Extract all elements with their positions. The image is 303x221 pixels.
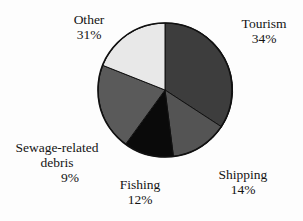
pie-label-fishing-value: 12% xyxy=(106,192,174,207)
pie-label-other: Other 31% xyxy=(58,12,120,42)
pie-label-tourism-name: Tourism xyxy=(228,16,300,31)
pie-label-fishing: Fishing 12% xyxy=(106,177,174,207)
pie-label-sewage-related-debris-line1: Sewage-related xyxy=(2,140,112,155)
pie-label-tourism: Tourism 34% xyxy=(228,16,300,46)
pie-label-shipping: Shipping 14% xyxy=(203,167,283,197)
pie-label-other-name: Other xyxy=(58,12,120,27)
pie-label-other-value: 31% xyxy=(58,27,120,42)
pie-label-fishing-name: Fishing xyxy=(106,177,174,192)
pie-chart-figure: Tourism 34% Other 31% Shipping 14% Fishi… xyxy=(0,0,303,221)
pie-label-tourism-value: 34% xyxy=(228,31,300,46)
pie-label-shipping-name: Shipping xyxy=(203,167,283,182)
pie-label-sewage-related-debris: Sewage-related debris 9% xyxy=(2,140,112,185)
pie-label-sewage-related-debris-value: 9% xyxy=(2,170,112,185)
pie-label-shipping-value: 14% xyxy=(203,182,283,197)
pie-label-sewage-related-debris-line2: debris xyxy=(2,155,112,170)
